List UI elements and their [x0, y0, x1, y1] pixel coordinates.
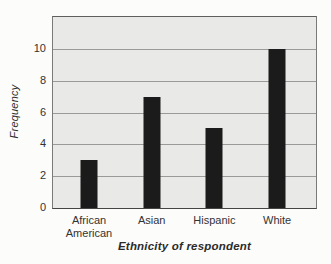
- y-axis: 0246810: [0, 17, 46, 208]
- plot-area: [52, 16, 317, 209]
- bar-asian: [143, 97, 160, 208]
- bar-hispanic: [206, 128, 223, 208]
- bar-african-american: [81, 160, 98, 208]
- y-tick-label: 2: [40, 169, 46, 182]
- x-category-label: African American: [54, 214, 124, 240]
- x-category-label: Asian: [117, 214, 187, 227]
- y-tick-label: 8: [40, 74, 46, 87]
- bar-white: [269, 49, 286, 208]
- y-tick-label: 10: [34, 42, 46, 55]
- y-tick-label: 4: [40, 137, 46, 150]
- y-tick-label: 0: [40, 201, 46, 214]
- x-axis-title: Ethnicity of respondent: [53, 240, 316, 252]
- y-tick-label: 6: [40, 106, 46, 119]
- x-category-label: White: [242, 214, 312, 227]
- frequency-bar-chart: Frequency 0246810 African AmericanAsianH…: [0, 0, 331, 264]
- x-category-label: Hispanic: [179, 214, 249, 227]
